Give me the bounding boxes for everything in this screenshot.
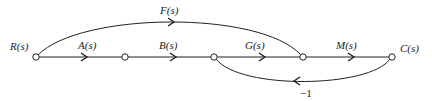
gain-g: G(s) [245,39,265,52]
node-2 [122,54,128,60]
node-r [33,54,39,60]
signal-flow-graph: R(s) C(s) A(s) B(s) G(s) M(s) F(s) −1 [0,0,432,101]
label-r: R(s) [9,40,29,53]
node-c [389,54,395,60]
branch-feedback [216,59,390,82]
gain-m: M(s) [335,39,357,52]
gain-a: A(s) [77,39,97,52]
gain-feedback: −1 [300,87,312,99]
node-4 [300,54,306,60]
label-c: C(s) [400,42,419,55]
gain-b: B(s) [159,39,178,52]
node-3 [211,54,217,60]
gain-f: F(s) [159,4,179,17]
